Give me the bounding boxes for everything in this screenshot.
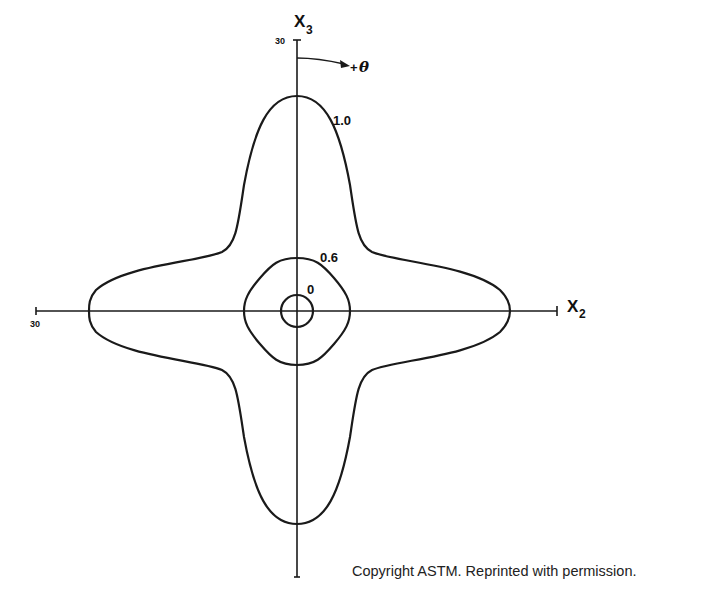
x2-axis-subscript: 2: [579, 307, 586, 321]
x3-axis-label: X: [294, 12, 306, 31]
arrowhead-icon: [340, 60, 350, 68]
x2-tick-label: 30: [30, 319, 40, 329]
contour-label-1-0: 1.0: [333, 113, 351, 128]
contour-label-0: 0: [307, 282, 314, 297]
theta-sign: +: [350, 60, 358, 75]
rotation-arrow: + θ: [297, 58, 369, 76]
theta-label: θ: [359, 58, 369, 76]
x3-tick-label: 30: [275, 36, 285, 46]
x2-axis-label: X: [567, 297, 579, 316]
contour-1-0: [89, 96, 510, 524]
copyright-caption: Copyright ASTM. Reprinted with permissio…: [352, 563, 636, 579]
contour-label-0-6: 0.6: [320, 250, 338, 265]
polar-contour-diagram: 30 X 2 30 X 3 + θ 1.0 0.6 0: [0, 0, 706, 611]
x3-axis-subscript: 3: [306, 23, 313, 37]
x2-axis: 30 X 2: [30, 297, 586, 329]
